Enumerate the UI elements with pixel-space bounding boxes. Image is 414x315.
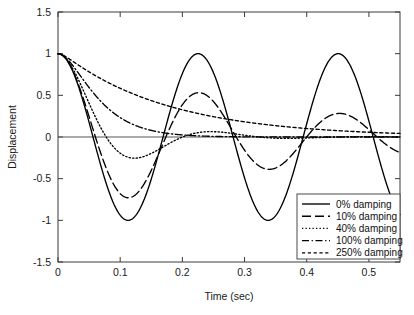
legend-label: 40% damping xyxy=(336,223,397,234)
x-tick-label: 0.4 xyxy=(299,266,314,278)
y-tick-label: 0 xyxy=(45,131,51,143)
x-tick-label: 0.1 xyxy=(113,266,128,278)
x-tick-label: 0.3 xyxy=(237,266,252,278)
y-tick-label: -1 xyxy=(42,214,51,226)
x-tick-label: 0.5 xyxy=(362,266,377,278)
chart-legend: 0% damping10% damping40% damping100% dam… xyxy=(297,194,403,259)
y-axis-title: Displacement xyxy=(6,105,18,169)
series-line-40-damping xyxy=(58,54,400,158)
series-line-10-damping xyxy=(58,54,400,198)
y-tick-label: -0.5 xyxy=(33,172,51,184)
x-tick-label: 0 xyxy=(55,266,61,278)
legend-label: 100% damping xyxy=(336,235,403,246)
x-axis-title: Time (sec) xyxy=(204,290,253,302)
y-tick-label: 1 xyxy=(45,47,51,59)
y-tick-label: 0.5 xyxy=(36,89,51,101)
legend-label: 0% damping xyxy=(336,199,392,210)
legend-label: 250% damping xyxy=(336,247,403,258)
chart-figure: 00.10.20.30.40.5 1.510.50-0.5-1-1.5 Time… xyxy=(0,0,414,315)
x-tick-labels: 00.10.20.30.40.5 xyxy=(55,266,376,278)
y-tick-label: -1.5 xyxy=(33,256,51,268)
y-tick-labels: 1.510.50-0.5-1-1.5 xyxy=(33,6,51,268)
legend-label: 10% damping xyxy=(336,211,397,222)
y-tick-label: 1.5 xyxy=(36,6,51,18)
damped-oscillation-chart: 00.10.20.30.40.5 1.510.50-0.5-1-1.5 Time… xyxy=(0,0,414,315)
x-tick-label: 0.2 xyxy=(175,266,190,278)
